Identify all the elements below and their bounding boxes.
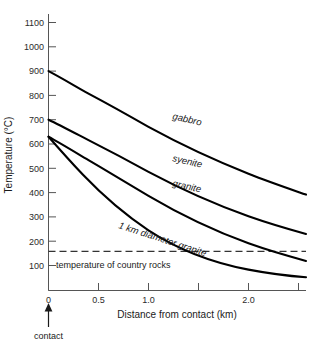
x-axis-title: Distance from contact (km) xyxy=(117,309,236,320)
temperature-distance-chart: 1100 1000 900 800 700 600 500 400 300 20… xyxy=(0,0,312,341)
y-tick-label-1100: 1100 xyxy=(25,18,44,28)
y-axis-title: Temperature (°C) xyxy=(3,117,14,194)
y-tick-label-500: 500 xyxy=(29,164,44,174)
x-tick-label-1p0: 1.0 xyxy=(142,295,155,305)
y-tick-label-900: 900 xyxy=(29,66,44,76)
x-tick-label-2p0: 2.0 xyxy=(242,295,255,305)
country-rocks-label: temperature of country rocks xyxy=(56,260,171,270)
chart-svg: 1100 1000 900 800 700 600 500 400 300 20… xyxy=(0,0,312,341)
y-tick-label-100: 100 xyxy=(29,261,44,271)
y-tick-label-400: 400 xyxy=(29,188,44,198)
y-tick-label-300: 300 xyxy=(29,212,44,222)
y-tick-label-600: 600 xyxy=(29,139,44,149)
x-tick-label-0p5: 0.5 xyxy=(92,295,105,305)
contact-label: contact xyxy=(34,331,64,341)
y-tick-label-800: 800 xyxy=(29,91,44,101)
chart-background xyxy=(0,0,312,341)
y-tick-label-700: 700 xyxy=(29,115,44,125)
y-tick-label-200: 200 xyxy=(29,237,44,247)
y-tick-label-1000: 1000 xyxy=(24,42,44,52)
